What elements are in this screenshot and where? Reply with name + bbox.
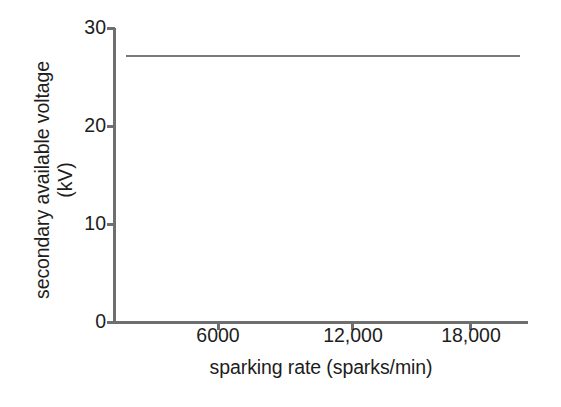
x-axis-title: sparking rate (sparks/min) [114, 356, 528, 379]
y-tick-labels: 30 20 10 0 [42, 0, 106, 407]
x-tick-label-12000: 12,000 [323, 326, 383, 346]
x-tick-label-18000: 18,000 [441, 326, 501, 346]
y-tick-label-30: 30 [46, 18, 106, 38]
y-tick-label-20: 20 [46, 116, 106, 136]
x-tick-label-6000: 6000 [196, 326, 239, 346]
y-tick-label-10: 10 [46, 214, 106, 234]
chart-figure: 30 20 10 0 6000 12,000 18,000 secondary … [0, 0, 561, 407]
y-tick-label-0: 0 [46, 312, 106, 332]
